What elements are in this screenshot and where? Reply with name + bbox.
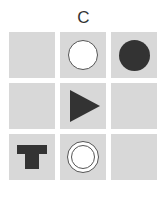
- black-circle-icon: [119, 40, 150, 71]
- panel-title: C: [0, 8, 167, 28]
- shape-grid: [9, 32, 157, 180]
- grid-cell-r1c1: [60, 83, 106, 129]
- grid-cell-r0c0: [9, 32, 55, 78]
- double-ring-icon: [67, 141, 99, 173]
- t-shape-icon: [17, 145, 47, 169]
- right-triangle-icon: [70, 90, 100, 122]
- white-circle-icon: [68, 40, 98, 70]
- grid-cell-r1c0: [9, 83, 55, 129]
- grid-cell-r2c1: [60, 134, 106, 180]
- grid-cell-r0c2: [111, 32, 157, 78]
- grid-cell-r2c0: [9, 134, 55, 180]
- grid-cell-r1c2: [111, 83, 157, 129]
- grid-cell-r2c2: [111, 134, 157, 180]
- grid-cell-r0c1: [60, 32, 106, 78]
